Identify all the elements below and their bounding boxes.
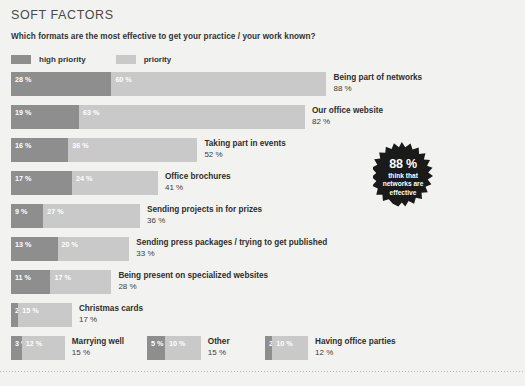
- bar-row-category: Sending press packages / trying to get p…: [136, 237, 327, 248]
- stacked-bar: 28 %60 %: [11, 72, 326, 96]
- bar-segment-priority-value: 27 %: [47, 207, 63, 216]
- bar-row-label: Being present on specialized websites28 …: [118, 270, 268, 292]
- bar-row-category: Being present on specialized websites: [118, 270, 268, 281]
- bar-row-category: Having office parties: [315, 336, 396, 347]
- bar-row-total: 15 %: [208, 347, 230, 358]
- stacked-bar: 2 %15 %: [11, 303, 72, 327]
- bar-segment-high-priority-value: 19 %: [15, 108, 31, 117]
- bar-segment-priority-value: 63 %: [83, 108, 99, 117]
- stacked-bar: 17 %24 %: [11, 171, 158, 195]
- bar-segment-high-priority-value: 28 %: [15, 75, 31, 84]
- bar-segment-priority: 24 %: [72, 171, 158, 195]
- bar-segment-high-priority: 11 %: [11, 270, 50, 294]
- bar-segment-priority-value: 12 %: [26, 339, 42, 348]
- bar-segment-high-priority-value: 5 %: [151, 339, 163, 348]
- bar-segment-high-priority: 5 %: [147, 336, 165, 360]
- bar-row-label: Christmas cards17 %: [79, 303, 143, 325]
- bar-row-label: Marrying well15 %: [72, 336, 124, 358]
- bar-segment-high-priority-value: 11 %: [15, 273, 31, 282]
- bar-row-label: Being part of networks88 %: [333, 72, 422, 94]
- bar-segment-high-priority: 3 %: [11, 336, 22, 360]
- stacked-bar: 11 %17 %: [11, 270, 111, 294]
- bar-segment-high-priority: 17 %: [11, 171, 72, 195]
- bar-row-category: Taking part in events: [204, 138, 285, 149]
- bar-segment-high-priority-value: 16 %: [15, 141, 31, 150]
- bar-row-total: 82 %: [312, 116, 383, 127]
- infographic-panel: SOFT FACTORS Which formats are the most …: [0, 0, 525, 386]
- bar-row-category: Being part of networks: [333, 72, 422, 83]
- bar-segment-priority-value: 60 %: [115, 75, 131, 84]
- bar-segment-priority-value: 20 %: [62, 240, 78, 249]
- bar-row-total: 36 %: [147, 215, 262, 226]
- bar-row-label: Having office parties12 %: [315, 336, 396, 358]
- bar-row-label: Sending press packages / trying to get p…: [136, 237, 327, 259]
- bar-segment-high-priority-value: 9 %: [15, 207, 27, 216]
- highlight-badge: 88 % think that networks are effective: [373, 140, 433, 214]
- bar-segment-high-priority-value: 17 %: [15, 174, 31, 183]
- bar-segment-priority-value: 15 %: [22, 306, 38, 315]
- stacked-bar-chart: 28 %60 %Being part of networks88 %19 %63…: [0, 0, 525, 386]
- bar-segment-priority-value: 36 %: [72, 141, 88, 150]
- bar-segment-priority: 10 %: [165, 336, 201, 360]
- bar-segment-priority: 60 %: [111, 72, 326, 96]
- bar-segment-high-priority: 16 %: [11, 138, 68, 162]
- bar-segment-high-priority: 9 %: [11, 204, 43, 228]
- bar-segment-priority-value: 10 %: [169, 339, 185, 348]
- bar-segment-priority: 63 %: [79, 105, 305, 129]
- bar-segment-priority: 15 %: [18, 303, 72, 327]
- bar-row-total: 33 %: [136, 248, 327, 259]
- bar-row-label: Our office website82 %: [312, 105, 383, 127]
- bar-segment-high-priority: 2 %: [11, 303, 18, 327]
- bar-segment-high-priority: 2 %: [265, 336, 272, 360]
- bar-row-total: 88 %: [333, 83, 422, 94]
- stacked-bar: 9 %27 %: [11, 204, 140, 228]
- bar-row-label: Other15 %: [208, 336, 230, 358]
- stacked-bar: 13 %20 %: [11, 237, 129, 261]
- bar-row-category: Our office website: [312, 105, 383, 116]
- bar-segment-priority: 27 %: [43, 204, 140, 228]
- bar-row-category: Christmas cards: [79, 303, 143, 314]
- footer-divider: [0, 371, 525, 372]
- bar-segment-priority-value: 24 %: [76, 174, 92, 183]
- bar-segment-high-priority: 13 %: [11, 237, 58, 261]
- bar-segment-priority: 10 %: [272, 336, 308, 360]
- bar-segment-priority: 20 %: [58, 237, 130, 261]
- bar-row-total: 17 %: [79, 314, 143, 325]
- bar-segment-priority-value: 17 %: [54, 273, 70, 282]
- bar-segment-priority: 36 %: [68, 138, 197, 162]
- bar-row-label: Sending projects in for prizes36 %: [147, 204, 262, 226]
- bar-row-total: 52 %: [204, 149, 285, 160]
- bar-row-total: 15 %: [72, 347, 124, 358]
- bar-row-category: Marrying well: [72, 336, 124, 347]
- bar-row-total: 28 %: [118, 281, 268, 292]
- bar-segment-high-priority: 28 %: [11, 72, 111, 96]
- stacked-bar: 5 %10 %: [147, 336, 201, 360]
- bar-segment-priority-value: 10 %: [276, 339, 292, 348]
- bar-row-total: 12 %: [315, 347, 396, 358]
- bar-row-label: Taking part in events52 %: [204, 138, 285, 160]
- bar-segment-priority: 17 %: [50, 270, 111, 294]
- stacked-bar: 2 %10 %: [265, 336, 308, 360]
- stacked-bar: 3 %12 %: [11, 336, 65, 360]
- bar-row-category: Other: [208, 336, 230, 347]
- bar-row-total: 41 %: [165, 182, 231, 193]
- bar-row-category: Sending projects in for prizes: [147, 204, 262, 215]
- stacked-bar: 16 %36 %: [11, 138, 197, 162]
- starburst-shape: [373, 140, 433, 214]
- bar-segment-high-priority: 19 %: [11, 105, 79, 129]
- bar-row-category: Office brochures: [165, 171, 231, 182]
- bar-segment-priority: 12 %: [22, 336, 65, 360]
- bar-row-label: Office brochures41 %: [165, 171, 231, 193]
- bar-segment-high-priority-value: 13 %: [15, 240, 31, 249]
- stacked-bar: 19 %63 %: [11, 105, 305, 129]
